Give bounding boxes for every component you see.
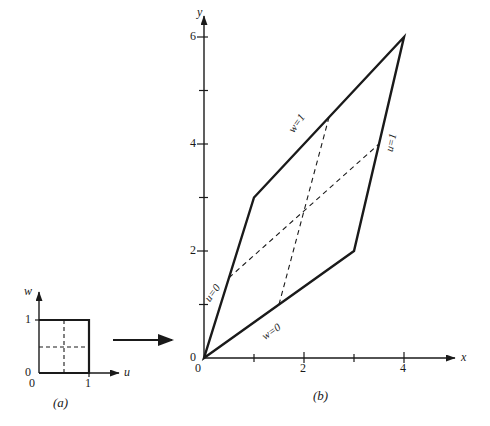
- panel-b-dashed-u-midline: [229, 144, 379, 278]
- panel-b-mapped-quadrilateral: [204, 37, 404, 358]
- panel-b-y-tick-label-2: 2: [190, 244, 196, 256]
- panel-b-x-axis-label: x: [461, 351, 466, 363]
- panel-a-u-tick-label-1: 1: [85, 377, 91, 389]
- panel-b-y-axis-label: y: [197, 6, 202, 18]
- figure-drawing: [0, 0, 490, 426]
- panel-b-x-tick-label-4: 4: [400, 362, 406, 374]
- figure-container: w u 1 0 0 1 (a) y x 6 4 2 0 0 2 4 u=0 w=…: [0, 0, 490, 426]
- panel-a-w-tick-label-1: 1: [25, 313, 31, 325]
- panel-a-caption: (a): [53, 396, 68, 409]
- panel-a-u-axis-label: u: [124, 366, 130, 378]
- panel-a-u-tick-label-0: 0: [29, 377, 35, 389]
- panel-b-x-tick-label-0: 0: [195, 362, 201, 374]
- panel-b-x-tick-label-2: 2: [300, 362, 306, 374]
- panel-b-y-tick-label-6: 6: [190, 30, 196, 42]
- panel-b-y-tick-label-4: 4: [190, 137, 196, 149]
- panel-a-w-axis-label: w: [24, 285, 32, 297]
- panel-b-caption: (b): [313, 389, 328, 402]
